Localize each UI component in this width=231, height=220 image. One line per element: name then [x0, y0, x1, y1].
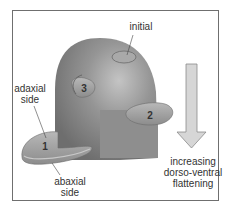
- label-primordium-1: 1: [40, 141, 50, 152]
- label-primordium-2: 2: [145, 110, 155, 121]
- label-primordium-3: 3: [79, 83, 89, 94]
- label-initial: initial: [126, 21, 156, 32]
- initial-primordium: [112, 51, 136, 63]
- label-adaxial-side: adaxial side: [12, 83, 48, 105]
- label-arrow-caption: increasing dorso-ventral flattening: [160, 156, 226, 189]
- flattening-arrow-icon: [177, 64, 206, 148]
- label-abaxial-side: abaxial side: [50, 176, 90, 198]
- adaxial-leader-line: [34, 106, 46, 138]
- abaxial-leader-line: [52, 163, 60, 175]
